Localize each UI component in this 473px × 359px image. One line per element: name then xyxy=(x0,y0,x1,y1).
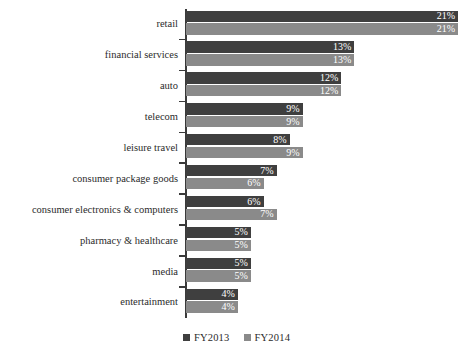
bar-fy2014: 7% xyxy=(186,209,277,220)
bar-fy2014: 4% xyxy=(186,301,238,312)
legend-item[interactable]: FY2014 xyxy=(244,332,291,343)
legend-label: FY2014 xyxy=(255,332,291,343)
legend-item[interactable]: FY2013 xyxy=(183,332,230,343)
bar-value-label: 8% xyxy=(273,135,286,145)
bar-value-label: 21% xyxy=(437,11,455,21)
category-label: consumer package goods xyxy=(0,173,178,185)
axis-tick xyxy=(179,162,186,164)
bar-value-label: 13% xyxy=(333,42,351,52)
category-label: telecom xyxy=(0,111,178,123)
category-label: consumer electronics & computers xyxy=(0,204,178,216)
bar-value-label: 12% xyxy=(320,86,338,96)
bar-fy2014: 21% xyxy=(186,23,458,34)
bar-fy2014: 5% xyxy=(186,240,251,251)
bar-group: 5%5% xyxy=(186,227,251,254)
bar-fy2013: 4% xyxy=(186,289,238,300)
bar-group: 6%7% xyxy=(186,196,277,223)
category-label: financial services xyxy=(0,49,178,61)
bar-fy2014: 9% xyxy=(186,147,303,158)
axis-tick xyxy=(179,70,186,72)
chart-row: retail21%21% xyxy=(0,9,473,40)
chart-row: auto12%12% xyxy=(0,71,473,102)
bar-value-label: 4% xyxy=(221,302,234,312)
bar-fy2013: 7% xyxy=(186,165,277,176)
axis-tick xyxy=(179,255,186,257)
bar-group: 21%21% xyxy=(186,11,458,38)
plot-area: retail21%21%financial services13%13%auto… xyxy=(0,0,473,325)
bar-fy2013: 13% xyxy=(186,41,354,52)
bar-group: 4%4% xyxy=(186,289,238,316)
bar-fy2013: 5% xyxy=(186,227,251,238)
category-label: pharmacy & healthcare xyxy=(0,235,178,247)
bar-value-label: 9% xyxy=(286,117,299,127)
bar-value-label: 12% xyxy=(320,73,338,83)
bar-value-label: 6% xyxy=(247,178,260,188)
bar-fy2014: 5% xyxy=(186,270,251,281)
bar-group: 13%13% xyxy=(186,41,354,68)
legend-swatch-icon xyxy=(183,334,190,341)
bar-value-label: 7% xyxy=(260,166,273,176)
bar-group: 8%9% xyxy=(186,134,303,161)
bar-value-label: 6% xyxy=(247,197,260,207)
bar-value-label: 4% xyxy=(221,289,234,299)
category-label: retail xyxy=(0,18,178,30)
category-rows: retail21%21%financial services13%13%auto… xyxy=(0,9,473,318)
axis-tick xyxy=(179,39,186,41)
bar-group: 5%5% xyxy=(186,258,251,285)
bar-value-label: 7% xyxy=(260,209,273,219)
bar-fy2014: 13% xyxy=(186,54,354,65)
bar-fy2014: 6% xyxy=(186,178,264,189)
bar-fy2013: 12% xyxy=(186,72,341,83)
bar-value-label: 5% xyxy=(234,258,247,268)
axis-tick xyxy=(179,101,186,103)
axis-tick xyxy=(179,224,186,226)
bar-value-label: 5% xyxy=(234,227,247,237)
legend-swatch-icon xyxy=(244,334,251,341)
bar-value-label: 9% xyxy=(286,104,299,114)
bar-group: 12%12% xyxy=(186,72,341,99)
bar-fy2013: 6% xyxy=(186,196,264,207)
bar-fy2013: 9% xyxy=(186,103,303,114)
category-label: leisure travel xyxy=(0,142,178,154)
axis-tick xyxy=(179,193,186,195)
chart-row: telecom9%9% xyxy=(0,102,473,133)
category-label: entertainment xyxy=(0,296,178,308)
bar-group: 7%6% xyxy=(186,165,277,192)
bar-fy2014: 9% xyxy=(186,116,303,127)
chart-row: leisure travel8%9% xyxy=(0,133,473,164)
bar-chart: retail21%21%financial services13%13%auto… xyxy=(0,0,473,359)
bar-group: 9%9% xyxy=(186,103,303,130)
chart-row: media5%5% xyxy=(0,256,473,287)
axis-tick xyxy=(179,132,186,134)
bar-fy2014: 12% xyxy=(186,85,341,96)
bar-fy2013: 21% xyxy=(186,11,458,22)
bar-fy2013: 5% xyxy=(186,258,251,269)
bar-value-label: 5% xyxy=(234,271,247,281)
chart-row: financial services13%13% xyxy=(0,40,473,71)
bar-value-label: 21% xyxy=(437,24,455,34)
legend-label: FY2013 xyxy=(194,332,230,343)
chart-row: pharmacy & healthcare5%5% xyxy=(0,225,473,256)
bar-value-label: 5% xyxy=(234,240,247,250)
bar-value-label: 9% xyxy=(286,148,299,158)
category-label: media xyxy=(0,266,178,278)
category-label: auto xyxy=(0,80,178,92)
chart-legend: FY2013FY2014 xyxy=(0,332,473,343)
bar-value-label: 13% xyxy=(333,55,351,65)
chart-row: entertainment4%4% xyxy=(0,287,473,318)
chart-row: consumer electronics & computers6%7% xyxy=(0,194,473,225)
chart-row: consumer package goods7%6% xyxy=(0,163,473,194)
bar-fy2013: 8% xyxy=(186,134,290,145)
axis-tick xyxy=(179,286,186,288)
